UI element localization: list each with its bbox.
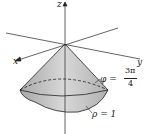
rho-label: ρ = 1 xyxy=(92,109,116,119)
solid-region xyxy=(20,44,108,112)
z-axis-label: z xyxy=(57,0,62,9)
y-axis-label: y xyxy=(137,57,142,67)
phi-numerator: 3π xyxy=(125,66,135,75)
phi-denominator: 4 xyxy=(128,79,133,88)
phi-label: φ = xyxy=(100,74,117,84)
x-axis-label: x xyxy=(13,56,18,66)
